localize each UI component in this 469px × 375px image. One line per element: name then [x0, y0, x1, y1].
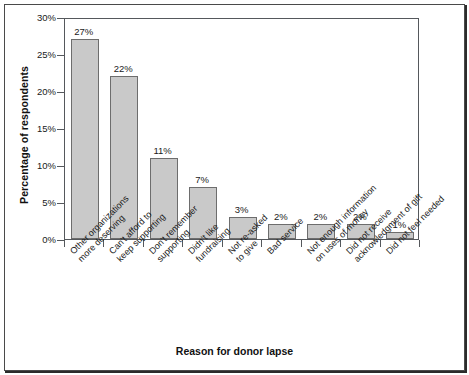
y-axis-tick-label: 0% — [22, 235, 56, 245]
bar-value-label: 7% — [182, 175, 222, 185]
y-axis-tick — [57, 240, 64, 241]
bar-value-label: 22% — [103, 64, 143, 74]
y-axis-tick — [57, 203, 64, 204]
y-axis-tick — [57, 92, 64, 93]
bar-value-label: 27% — [64, 27, 104, 37]
x-axis-title: Reason for donor lapse — [0, 345, 469, 357]
bar-value-label: 3% — [222, 205, 262, 215]
y-axis-title: Percentage of respondents — [18, 35, 30, 235]
x-axis-tick — [301, 240, 302, 247]
bar — [71, 39, 99, 239]
figure-container: 0%5%10%15%20%25%30% Percentage of respon… — [0, 0, 469, 375]
x-axis-tick — [419, 240, 420, 247]
bar-value-label: 11% — [143, 146, 183, 156]
y-axis-tick — [57, 55, 64, 56]
y-axis-tick — [57, 129, 64, 130]
x-axis-tick — [64, 240, 65, 247]
y-axis-tick-label: 30% — [22, 13, 56, 23]
y-axis-tick — [57, 18, 64, 19]
y-axis-tick — [57, 166, 64, 167]
